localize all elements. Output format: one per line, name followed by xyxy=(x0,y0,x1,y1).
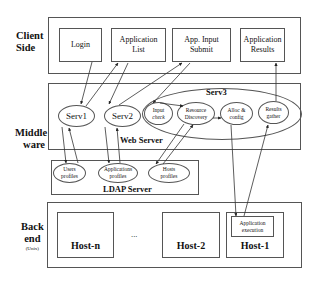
serv2-ellipse: Serv2 xyxy=(104,105,141,127)
login-box: Login xyxy=(59,28,102,62)
backend-label-line2: end xyxy=(24,233,40,244)
ldap-server-label: LDAP Server xyxy=(103,184,152,194)
input-check-label: Inputcheck xyxy=(152,107,165,121)
app-input-submit-box: App. InputSubmit xyxy=(172,28,231,62)
serv2-label: Serv2 xyxy=(112,111,133,121)
applications-profiles-label: Applicationsprofiles xyxy=(104,166,132,180)
application-execution-box: Applicationexecution xyxy=(231,216,274,237)
hosts-profiles-label: Hostsprofiles xyxy=(161,166,178,180)
host-2-label: Host-2 xyxy=(177,240,205,251)
backend-label-sub: (Unix) xyxy=(21,245,44,252)
serv3-label: Serv3 xyxy=(206,87,227,97)
host-1-label: Host-1 xyxy=(241,240,269,251)
backend-label: Back end (Unix) xyxy=(21,221,44,252)
input-check-ellipse: Inputcheck xyxy=(144,102,173,125)
application-execution-label: Applicationexecution xyxy=(240,220,266,234)
host-n-label: Host-n xyxy=(71,240,100,251)
middleware-label: Middle ware xyxy=(15,127,47,151)
application-list-box: ApplicationList xyxy=(111,28,166,62)
client-side-label: Client Side xyxy=(16,30,43,54)
host-2-box: Host-2 xyxy=(162,212,220,258)
application-list-label: ApplicationList xyxy=(120,35,158,55)
resource-discovery-ellipse: ResourceDiscovery xyxy=(177,102,215,125)
resource-discovery-label: ResourceDiscovery xyxy=(185,107,208,121)
middleware-label-line2: ware xyxy=(23,139,45,150)
serv1-ellipse: Serv1 xyxy=(58,105,95,127)
results-gather-label: Resultsgather xyxy=(265,106,281,120)
hosts-ellipsis: ... xyxy=(131,229,137,239)
serv1-label: Serv1 xyxy=(66,111,87,121)
hosts-profiles-ellipse: Hostsprofiles xyxy=(148,163,190,183)
application-results-box: ApplicationResults xyxy=(240,28,285,62)
users-profiles-label: Usersprofiles xyxy=(61,166,78,180)
alloc-config-ellipse: Alloc &config xyxy=(220,102,253,125)
web-server-label: Web Server xyxy=(120,135,163,145)
client-label-line2: Side xyxy=(16,42,35,53)
users-profiles-ellipse: Usersprofiles xyxy=(53,163,86,183)
client-label-line1: Client xyxy=(16,30,43,41)
host-n-box: Host-n xyxy=(57,212,114,258)
application-results-label: ApplicationResults xyxy=(244,35,282,55)
middleware-label-line1: Middle xyxy=(15,127,47,138)
applications-profiles-ellipse: Applicationsprofiles xyxy=(98,163,138,183)
app-input-submit-label: App. InputSubmit xyxy=(184,35,219,55)
login-label: Login xyxy=(71,40,90,50)
alloc-config-label: Alloc &config xyxy=(228,107,246,121)
backend-label-line1: Back xyxy=(21,221,44,232)
results-gather-ellipse: Resultsgather xyxy=(258,101,289,124)
